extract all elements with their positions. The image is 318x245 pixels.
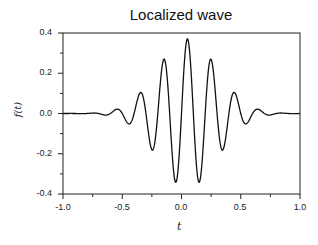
plot-area [0,0,318,245]
wave-curve [63,39,300,182]
axis-ticks [58,33,300,199]
